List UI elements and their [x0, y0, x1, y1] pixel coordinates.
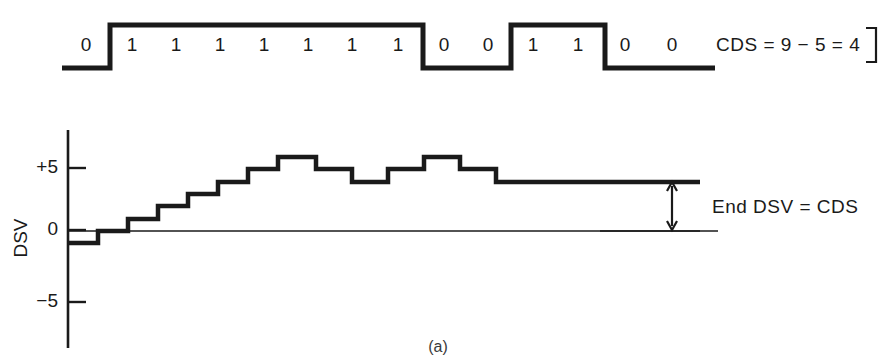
bit-label: 1 — [127, 34, 138, 55]
end-dsv-label: End DSV = CDS — [712, 196, 858, 217]
figure-caption: (a) — [428, 338, 448, 355]
tick-label-plus5: +5 — [36, 156, 58, 177]
bit-label: 0 — [483, 34, 494, 55]
bit-label-row: 0 1 1 1 1 1 1 1 0 0 1 1 0 0 — [81, 34, 678, 55]
dsv-staircase-path — [68, 157, 560, 243]
bit-label: 1 — [215, 34, 226, 55]
figure-container: 0 1 1 1 1 1 1 1 0 0 1 1 0 0 CDS = 9 − 5 … — [0, 0, 883, 364]
bit-label: 1 — [528, 34, 539, 55]
nrz-waveform-group — [62, 25, 715, 68]
nrz-waveform-path — [62, 25, 715, 68]
bit-label: 1 — [573, 34, 584, 55]
bit-label: 0 — [620, 34, 631, 55]
bit-label: 0 — [667, 34, 678, 55]
right-bracket-icon — [866, 28, 876, 62]
cds-equation-label: CDS = 9 − 5 = 4 — [716, 34, 860, 55]
tick-label-minus5: −5 — [36, 290, 58, 311]
dsv-plot-group: +5 0 −5 DSV End DSV = CDS — [10, 130, 858, 348]
bit-label: 1 — [347, 34, 358, 55]
end-dsv-arrow — [667, 182, 677, 230]
bit-label: 0 — [439, 34, 450, 55]
tick-label-zero: 0 — [47, 218, 58, 239]
bit-label: 1 — [259, 34, 270, 55]
bit-label: 0 — [81, 34, 92, 55]
dsv-axis-title: DSV — [10, 218, 31, 257]
bit-label: 1 — [303, 34, 314, 55]
bit-label: 1 — [171, 34, 182, 55]
bit-label: 1 — [393, 34, 404, 55]
signal-dsv-figure: 0 1 1 1 1 1 1 1 0 0 1 1 0 0 CDS = 9 − 5 … — [0, 0, 883, 364]
